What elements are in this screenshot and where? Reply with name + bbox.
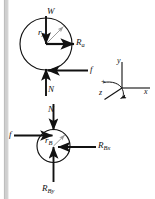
diagram-svg — [0, 0, 155, 199]
label-radius-b: rB — [45, 136, 53, 145]
label-reaction-by: RBy — [42, 184, 54, 193]
lower-radius-arrow — [54, 135, 66, 146]
label-reaction-bx: RBx — [98, 141, 110, 150]
label-normal-upper: N — [48, 85, 54, 94]
label-axis-x: x — [144, 88, 148, 96]
label-radius-a: rA — [38, 28, 46, 37]
upper-radius-arrow — [46, 27, 64, 45]
label-reaction-a: Ra — [76, 38, 85, 47]
label-axis-sign: + — [101, 78, 106, 86]
label-friction-upper: f — [90, 65, 93, 74]
free-body-diagram-canvas: W rA Ra f N N f rB RBx RBy y x z + — [0, 0, 155, 199]
label-axis-z: z — [99, 89, 102, 97]
label-normal-lower: N — [48, 105, 54, 114]
label-weight: W — [47, 7, 55, 16]
wall — [4, 0, 8, 199]
label-friction-lower: f — [9, 130, 12, 139]
label-axis-y: y — [117, 57, 121, 65]
